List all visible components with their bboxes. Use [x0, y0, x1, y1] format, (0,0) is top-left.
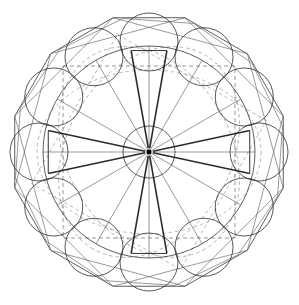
radial-spoke-5: [149, 152, 241, 205]
polygon-chord: [185, 188, 283, 286]
polygon-chord: [15, 188, 113, 286]
heavy-spoke-5: [150, 156, 167, 254]
heavy-spoke-2: [150, 51, 167, 149]
polygon-chord: [51, 250, 185, 286]
center-point: [147, 150, 152, 155]
polygon-chord: [185, 18, 283, 116]
radial-spoke-3: [149, 99, 241, 152]
heavy-spoke-6: [131, 156, 148, 254]
polygon-chord: [113, 250, 247, 286]
polygon-chord: [113, 18, 247, 54]
rosette-svg: [0, 0, 299, 305]
radial-spoke-9: [57, 152, 149, 205]
polygon-chord: [15, 18, 113, 116]
polygon-chord: [51, 18, 185, 54]
geometric-figure-canvas: [0, 0, 299, 305]
radial-spoke-11: [57, 99, 149, 152]
heavy-spoke-1: [131, 51, 148, 149]
